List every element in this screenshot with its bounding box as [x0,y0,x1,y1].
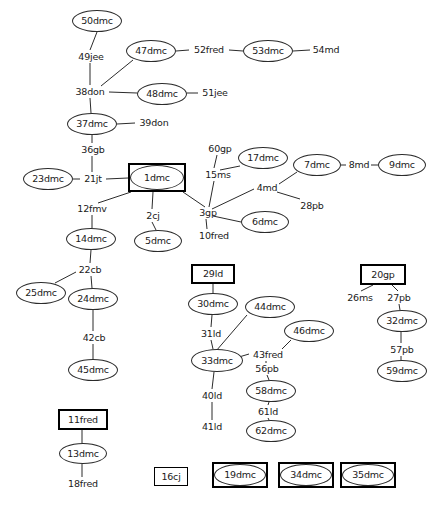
node-label-48dmc: 48dmc [146,89,178,99]
node-6dmc[interactable]: 6dmc [241,211,289,233]
node-24dmc[interactable]: 24dmc [68,288,118,310]
node-1dmc[interactable]: 1dmc [128,163,186,192]
node-62dmc[interactable]: 62dmc [246,420,296,442]
node-30dmc[interactable]: 30dmc [188,293,238,315]
node-16cj[interactable]: 16cj [154,467,188,486]
node-label-8md: 8md [349,160,370,170]
node-26ms[interactable]: 26ms [345,292,375,304]
node-61ld[interactable]: 61ld [256,406,280,418]
node-label-33dmc: 33dmc [201,356,233,366]
node-28pb[interactable]: 28pb [298,200,326,212]
node-label-1dmc: 1dmc [144,173,170,183]
node-4md[interactable]: 4md [255,182,279,194]
node-60gp[interactable]: 60gp [206,143,234,155]
node-52fred[interactable]: 52fred [190,44,228,56]
node-label-32dmc: 32dmc [386,316,418,326]
node-label-19dmc: 19dmc [224,470,256,480]
node-39don[interactable]: 39don [136,117,172,129]
node-label-50dmc: 50dmc [81,16,113,26]
node-57pb[interactable]: 57pb [388,344,416,356]
node-label-57pb: 57pb [390,345,413,355]
node-8md[interactable]: 8md [347,159,371,171]
node-47dmc[interactable]: 47dmc [126,40,176,62]
node-15ms[interactable]: 15ms [204,169,232,181]
node-label-29ld: 29ld [203,269,223,279]
node-label-20gp: 20gp [371,270,394,280]
node-label-44dmc: 44dmc [254,302,286,312]
node-label-16cj: 16cj [161,472,180,482]
node-13dmc[interactable]: 13dmc [59,443,107,464]
node-51jee[interactable]: 51jee [199,87,231,99]
node-41ld[interactable]: 41ld [200,421,224,433]
node-59dmc[interactable]: 59dmc [377,360,427,382]
node-9dmc[interactable]: 9dmc [378,154,426,176]
node-label-56pb: 56pb [255,364,278,374]
node-37dmc[interactable]: 37dmc [67,113,117,135]
node-45dmc[interactable]: 45dmc [68,359,118,381]
node-12fmv[interactable]: 12fmv [75,203,109,215]
node-29ld[interactable]: 29ld [191,264,235,284]
node-label-12fmv: 12fmv [77,204,106,214]
node-42cb[interactable]: 42cb [80,332,108,344]
node-35dmc[interactable]: 35dmc [340,462,396,488]
node-18fred[interactable]: 18fred [64,478,102,490]
node-label-4md: 4md [257,183,278,193]
node-19dmc[interactable]: 19dmc [212,462,268,488]
node-7dmc[interactable]: 7dmc [293,154,341,176]
node-17dmc[interactable]: 17dmc [238,147,288,169]
node-56pb[interactable]: 56pb [253,363,281,375]
node-53dmc[interactable]: 53dmc [243,40,293,62]
node-label-53dmc: 53dmc [252,46,284,56]
node-label-26ms: 26ms [347,293,373,303]
node-label-46dmc: 46dmc [293,326,325,336]
node-label-36gb: 36gb [81,145,104,155]
node-32dmc[interactable]: 32dmc [377,310,427,332]
node-10fred[interactable]: 10fred [195,230,233,242]
node-ellipse-34dmc: 34dmc [280,464,332,486]
node-33dmc[interactable]: 33dmc [191,349,243,372]
node-label-41ld: 41ld [202,422,222,432]
node-20gp[interactable]: 20gp [360,264,406,285]
node-label-30dmc: 30dmc [197,299,229,309]
node-22cb[interactable]: 22cb [76,264,104,276]
node-label-18fred: 18fred [68,479,98,489]
node-label-62dmc: 62dmc [255,426,287,436]
node-label-25dmc: 25dmc [25,288,57,298]
node-label-9dmc: 9dmc [389,160,415,170]
node-46dmc[interactable]: 46dmc [284,320,334,342]
node-5dmc[interactable]: 5dmc [134,230,182,252]
node-label-39don: 39don [140,118,169,128]
node-40ld[interactable]: 40ld [200,390,224,402]
node-label-40ld: 40ld [202,391,222,401]
node-38don[interactable]: 38don [72,86,108,98]
node-54md[interactable]: 54md [311,44,341,56]
node-36gb[interactable]: 36gb [78,144,108,156]
node-21jt[interactable]: 21jt [80,173,106,185]
node-2cj[interactable]: 2cj [143,210,163,222]
node-23dmc[interactable]: 23dmc [23,168,73,190]
node-label-13dmc: 13dmc [67,449,99,459]
node-50dmc[interactable]: 50dmc [72,10,122,32]
node-48dmc[interactable]: 48dmc [137,83,187,105]
node-label-59dmc: 59dmc [386,366,418,376]
node-27pb[interactable]: 27pb [385,292,413,304]
node-label-54md: 54md [313,45,340,55]
node-43fred[interactable]: 43fred [249,349,287,361]
node-ellipse-1dmc: 1dmc [130,165,184,190]
node-25dmc[interactable]: 25dmc [16,282,66,304]
node-label-6dmc: 6dmc [252,217,278,227]
node-label-52fred: 52fred [194,45,224,55]
node-49jee[interactable]: 49jee [74,51,108,63]
node-11fred[interactable]: 11fred [58,409,108,430]
node-58dmc[interactable]: 58dmc [246,380,296,402]
node-label-42cb: 42cb [83,333,106,343]
node-14dmc[interactable]: 14dmc [66,228,116,250]
node-31ld[interactable]: 31ld [199,328,223,340]
node-34dmc[interactable]: 34dmc [278,462,334,488]
node-3gp[interactable]: 3gp [197,207,219,219]
node-label-58dmc: 58dmc [255,386,287,396]
node-label-28pb: 28pb [300,201,323,211]
node-label-35dmc: 35dmc [352,470,384,480]
node-label-38don: 38don [76,87,105,97]
node-44dmc[interactable]: 44dmc [245,296,295,318]
